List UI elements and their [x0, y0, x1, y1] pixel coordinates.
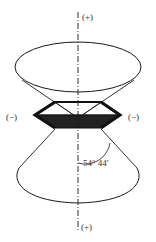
angle-label: 54° 44′	[83, 158, 109, 168]
top-pole-label: (+)	[82, 12, 93, 22]
bottom-pole-label: (+)	[81, 222, 92, 232]
lower-cone-left-edge	[19, 129, 55, 168]
left-side-label: (−)	[6, 112, 17, 122]
right-side-label: (−)	[128, 112, 139, 122]
